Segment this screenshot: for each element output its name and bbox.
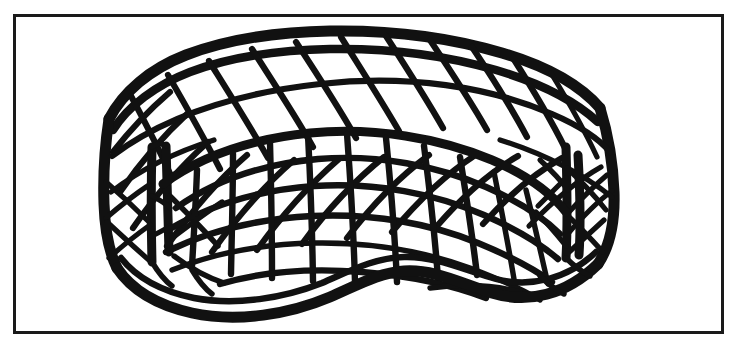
figure-root: Black ink line drawing of a woven rattan…: [0, 0, 737, 347]
chair-illustration: [0, 0, 737, 347]
woven-chair: [104, 31, 614, 317]
